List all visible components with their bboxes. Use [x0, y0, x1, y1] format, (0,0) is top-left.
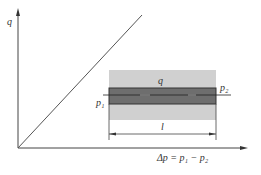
length-label: l	[161, 122, 164, 132]
dimension-arrow-left-icon	[109, 133, 116, 136]
dimension-arrow-right-icon	[209, 133, 216, 136]
x-axis-label: Δp = p₁ − p₂	[157, 153, 208, 163]
flow-label: q	[158, 76, 163, 86]
inlet-pressure-label: p₁	[96, 98, 104, 108]
outlet-pressure-label: p₂	[220, 83, 228, 93]
pipe	[109, 88, 216, 104]
y-axis-label: q	[7, 17, 12, 27]
y-axis-arrow-icon	[16, 8, 20, 16]
x-axis-arrow-icon	[240, 146, 248, 150]
